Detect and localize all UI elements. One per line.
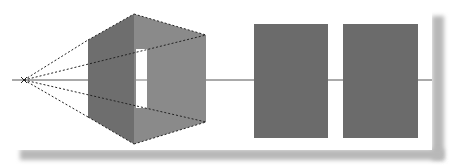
box-window xyxy=(136,49,147,108)
box-left-face xyxy=(88,14,134,144)
rectangle-1 xyxy=(254,24,328,138)
perspective-diagram xyxy=(0,0,455,167)
rectangle-2 xyxy=(343,24,418,138)
